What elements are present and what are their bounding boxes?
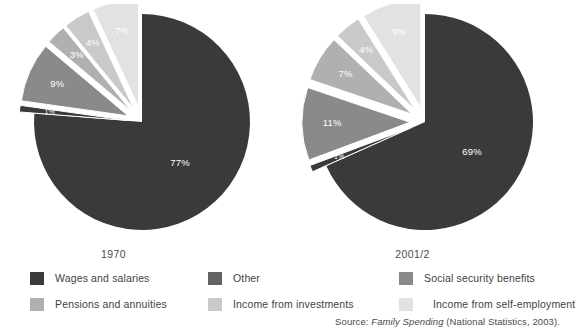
legend-column-3: Social security benefits Income from sel… — [399, 265, 575, 317]
legend-label-pensions: Pensions and annuities — [55, 298, 167, 310]
pie-slice-label: 1% — [333, 153, 344, 160]
pie-slice-label: 4% — [85, 37, 99, 48]
pie-slice-label: 7% — [114, 25, 128, 36]
legend-item-self-employment: Income from self-employment — [399, 291, 575, 317]
legend-column-1: Wages and salaries Pensions and annuitie… — [30, 265, 167, 317]
chart-year-label-2001: 2001/2 — [271, 248, 554, 260]
pie-chart-1970: 77%1%9%3%4%7% 1970 — [0, 0, 283, 262]
legend-column-2: Other Income from investments — [208, 265, 354, 317]
pie-chart-2001: 69%1%11%7%4%9% 2001/2 — [283, 0, 566, 262]
legend-swatch-investments — [208, 298, 222, 311]
source-suffix: (National Statistics, 2003). — [444, 316, 560, 327]
legend-swatch-wages — [30, 272, 44, 285]
legend-item-wages: Wages and salaries — [30, 265, 167, 291]
legend-swatch-social-security — [399, 272, 413, 285]
legend-swatch-other — [208, 272, 222, 285]
pie-slice-label: 3% — [69, 49, 83, 60]
legend-label-social-security: Social security benefits — [424, 272, 535, 284]
legend-swatch-self-employment — [399, 298, 413, 311]
legend-swatch-pensions — [30, 298, 44, 311]
source-note: Source: Family Spending (National Statis… — [335, 316, 560, 327]
pie-slice-label: 77% — [170, 157, 190, 168]
legend-item-other: Other — [208, 265, 354, 291]
pie-slice-label: 69% — [462, 146, 482, 157]
pie-slice-label: 4% — [359, 44, 373, 55]
pie-slice-label: 7% — [338, 68, 352, 79]
pie-slice-label: 1% — [44, 108, 55, 115]
legend-label-wages: Wages and salaries — [55, 272, 150, 284]
pie-slice-label: 11% — [322, 117, 341, 128]
legend: Wages and salaries Pensions and annuitie… — [0, 265, 566, 317]
source-publication-title: Family Spending — [371, 316, 443, 327]
pie-svg-1970: 77%1%9%3%4%7% — [12, 4, 272, 250]
pie-slice-label: 9% — [392, 26, 406, 37]
legend-item-social-security: Social security benefits — [399, 265, 575, 291]
legend-item-investments: Income from investments — [208, 291, 354, 317]
pie-slice-label: 9% — [50, 78, 64, 89]
chart-year-label-1970: 1970 — [0, 248, 255, 260]
legend-label-investments: Income from investments — [233, 298, 354, 310]
pie-svg-2001: 69%1%11%7%4%9% — [295, 4, 555, 250]
legend-label-self-employment: Income from self-employment — [433, 298, 575, 310]
legend-item-pensions: Pensions and annuities — [30, 291, 167, 317]
legend-label-other: Other — [233, 272, 260, 284]
source-prefix: Source: — [335, 316, 371, 327]
